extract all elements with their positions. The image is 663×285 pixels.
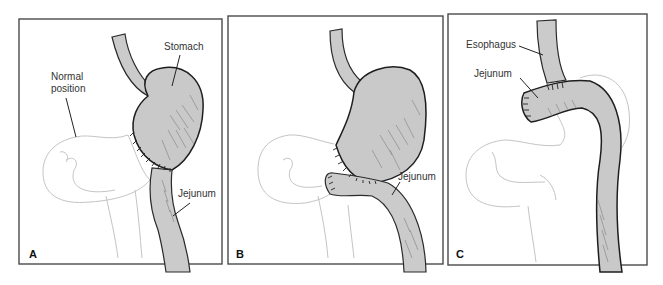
panel-b: Jejunum B (228, 16, 443, 272)
label-jejunum: Jejunum (474, 68, 512, 79)
panel-letter-b: B (236, 248, 244, 260)
panel-a: Stomach Normal position Jejunum A (19, 19, 222, 272)
panel-c: Esophagus Jejunum C (448, 14, 647, 272)
label-esophagus: Esophagus (466, 39, 516, 50)
panel-letter-a: A (29, 248, 37, 260)
jejunum-shape (325, 173, 426, 272)
label-normal-position-line2: position (51, 83, 85, 94)
jejunum-shape (150, 168, 190, 272)
label-stomach: Stomach (164, 41, 203, 52)
surgical-diagram: Stomach Normal position Jejunum A Jejunu… (0, 0, 663, 285)
esophagus-shape (330, 29, 362, 92)
esophagus-shape (537, 20, 566, 83)
normal-position-outline (43, 135, 150, 258)
jejunum-shape (522, 81, 622, 272)
label-jejunum: Jejunum (398, 171, 436, 182)
label-normal-position-line1: Normal (51, 71, 83, 82)
panel-letter-c: C (456, 248, 464, 260)
label-jejunum: Jejunum (178, 188, 216, 199)
